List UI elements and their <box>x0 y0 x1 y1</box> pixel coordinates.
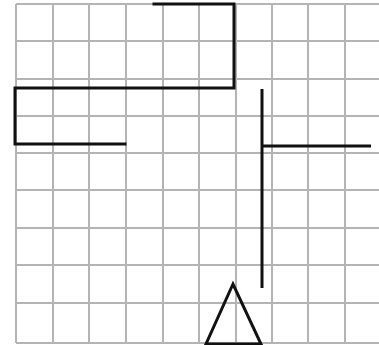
path-shape <box>15 4 234 144</box>
shape-layer <box>15 4 371 344</box>
triangle-shape <box>206 284 261 344</box>
grid-lines <box>16 4 379 343</box>
diagram-svg <box>0 0 379 345</box>
grid-diagram <box>0 0 379 345</box>
